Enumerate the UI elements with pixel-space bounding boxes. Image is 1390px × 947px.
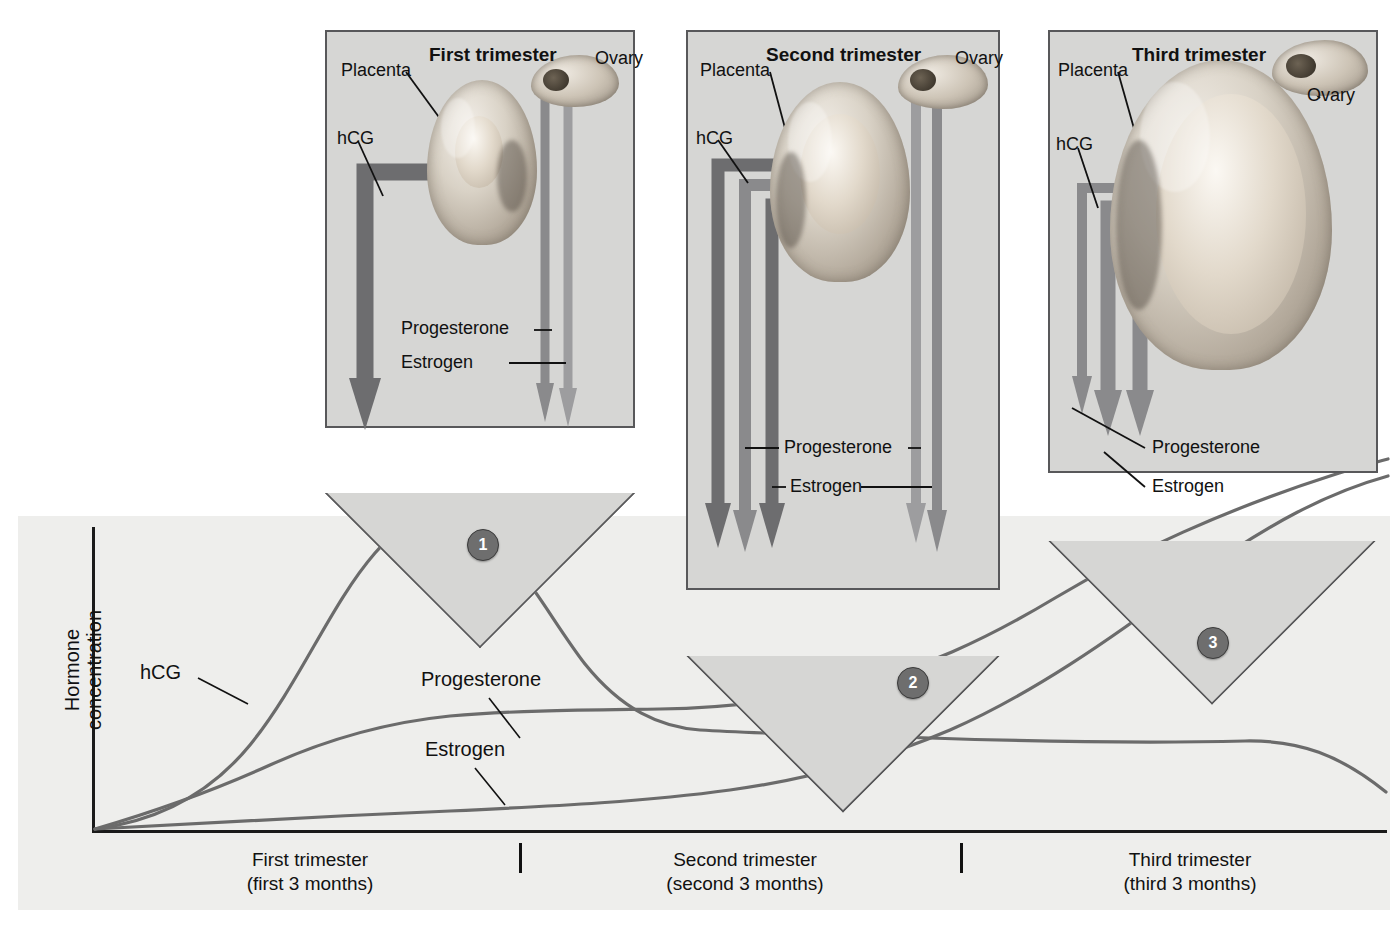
panel-label-placenta-third: Placenta bbox=[1058, 60, 1128, 81]
figure-root: Hormone concentration hCG Progesterone E… bbox=[0, 0, 1390, 947]
panel-label-progesterone-third: Progesterone bbox=[1152, 437, 1260, 458]
placenta-shadow-third bbox=[1116, 140, 1162, 310]
panel-label-estrogen-third: Estrogen bbox=[1152, 476, 1224, 497]
corpus-luteum-third bbox=[1286, 54, 1316, 78]
panel-label-ovary-third: Ovary bbox=[1307, 85, 1355, 106]
flow-hcg-third-arrowhead bbox=[1072, 376, 1092, 414]
step-marker-1[interactable]: 1 bbox=[467, 529, 499, 561]
panel-title-third: Third trimester bbox=[1132, 44, 1266, 66]
flow-progesterone-third-arrowhead bbox=[1094, 390, 1122, 436]
step-marker-3[interactable]: 3 bbox=[1197, 627, 1229, 659]
panel-label-hcg-third: hCG bbox=[1056, 134, 1093, 155]
leader-estrogen-third bbox=[1104, 452, 1145, 487]
step-marker-2[interactable]: 2 bbox=[897, 667, 929, 699]
flow-estrogen-third-arrowhead bbox=[1126, 390, 1154, 436]
cropped-caption-strip bbox=[0, 0, 1390, 14]
